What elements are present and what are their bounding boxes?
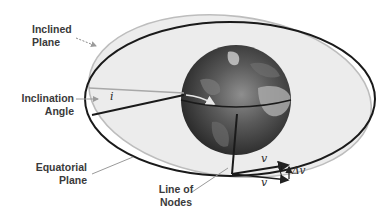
inclined-plane-pointer [76, 38, 96, 46]
orbital-plane-change-diagram: Inclined Plane Inclination Angle Equator… [0, 0, 389, 219]
equatorial-plane-pointer [92, 157, 133, 174]
inclination-symbol: i [110, 90, 114, 103]
line-of-nodes-label: Line of Nodes [148, 183, 204, 209]
equatorial-plane-label: Equatorial Plane [24, 161, 87, 187]
inclination-angle-label: Inclination Angle [14, 92, 74, 118]
velocity-initial-symbol: v [261, 152, 267, 165]
delta-v-symbol: Δv [292, 164, 306, 176]
velocity-final-symbol: v [261, 176, 267, 189]
earth-globe [181, 45, 291, 155]
inclined-plane-label: Inclined Plane [32, 23, 72, 49]
